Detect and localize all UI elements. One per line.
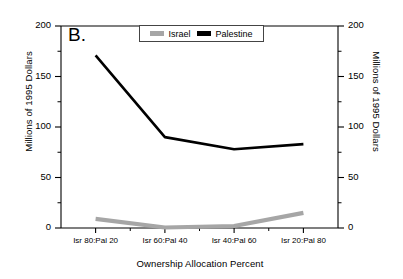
y-tick-left-0: 0 [26,221,51,232]
plot-frame [61,26,338,228]
y-tick-right-150: 150 [348,70,364,81]
x-tick-label-2: Isr 40:Pal 60 [199,236,269,245]
y-tick-right-0: 0 [348,221,353,232]
legend-label-israel: Israel [168,29,190,39]
y-tick-right-200: 200 [348,19,364,30]
y-tick-right-100: 100 [348,120,364,131]
legend-entry-palestine: Palestine [197,29,252,39]
y-axis-left-title: Millions of 1995 Dollars [23,27,34,177]
x-tick-label-0: Isr 80:Pal 20 [61,236,131,245]
legend-entry-israel: Israel [150,29,190,39]
series-line-palestine [96,55,304,149]
y-axis-right-title: Millions of 1995 Dollars [371,27,382,177]
x-axis-title: Ownership Allocation Percent [61,258,339,269]
y-axis-left-ticks [55,26,61,228]
y-tick-right-50: 50 [348,171,359,182]
panel-label: B. [68,24,86,46]
legend-swatch-israel [150,31,164,36]
legend-label-palestine: Palestine [215,29,252,39]
y-axis-right-ticks [338,26,344,228]
chart-legend: Israel Palestine [139,25,264,42]
series-line-israel [96,213,304,228]
x-tick-label-3: Isr 20:Pal 80 [268,236,338,245]
legend-swatch-palestine [197,31,211,36]
x-tick-label-1: Isr 60:Pal 40 [130,236,200,245]
